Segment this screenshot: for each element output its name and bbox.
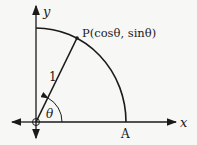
angle-label: θ (46, 107, 54, 121)
point-a-label: A (120, 127, 130, 141)
radius-label: 1 (49, 70, 57, 84)
point-p-dot (75, 36, 79, 40)
point-p-label: P(cosθ, sinθ) (82, 26, 156, 40)
y-axis-label: y (42, 4, 51, 19)
unit-circle-diagram: y x P(cosθ, sinθ) 1 θ A (0, 0, 197, 145)
x-axis-label: x (180, 115, 188, 130)
